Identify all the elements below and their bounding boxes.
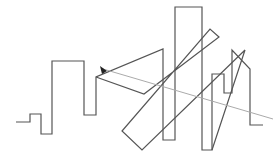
diagonal-polyline: [96, 29, 245, 150]
skyline-polyline: [16, 7, 263, 150]
pointer-line: [103, 69, 273, 119]
drawing-canvas[interactable]: [0, 0, 273, 158]
line-drawing: [0, 0, 273, 158]
